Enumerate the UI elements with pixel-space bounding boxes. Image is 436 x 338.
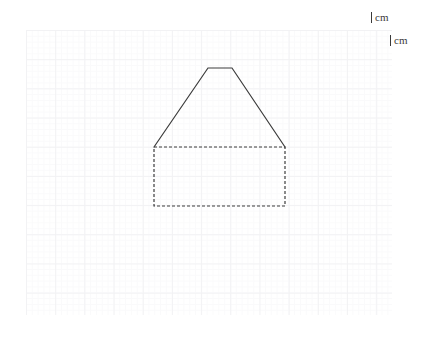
- vertical-scale-label: cm: [371, 12, 388, 23]
- vertical-scale-text: cm: [375, 12, 388, 23]
- horizontal-scale-text: cm: [394, 35, 407, 46]
- horizontal-scale-label: cm: [390, 35, 407, 46]
- horizontal-scale-tick-icon: [390, 35, 391, 46]
- vertical-scale-tick-icon: [371, 12, 372, 23]
- figure-canvas: cm cm: [0, 0, 436, 338]
- dashed-rectangle-base: [154, 147, 285, 206]
- geometry-figure: [0, 0, 436, 338]
- trapezoid-roof-outline: [154, 68, 285, 147]
